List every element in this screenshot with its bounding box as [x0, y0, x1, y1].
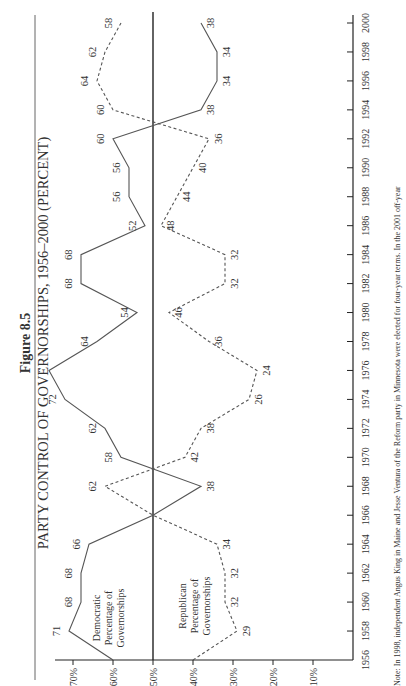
democratic-data-label: 68 [63, 249, 74, 259]
democratic-data-label: 60 [95, 134, 106, 145]
percent-tick-label: 30% [228, 668, 239, 686]
republican-data-label: 44 [181, 191, 192, 202]
republican-series-line [97, 23, 257, 660]
legend-democratic-line-3: Governorships [115, 588, 126, 647]
republican-data-label: 60 [95, 105, 106, 116]
year-tick-label: 1992 [360, 129, 371, 149]
percent-tick-label: 70% [68, 668, 79, 686]
year-tick-label: 1982 [360, 274, 371, 294]
republican-data-label: 32 [229, 568, 240, 579]
democratic-data-label: 38 [205, 105, 216, 116]
republican-data-label: 62 [87, 47, 98, 58]
republican-data-label: 29 [241, 626, 252, 637]
democratic-data-label: 54 [119, 307, 130, 318]
republican-data-label: 32 [229, 278, 240, 289]
republican-data-label: 42 [189, 452, 200, 463]
percent-tick-label: 10% [308, 668, 319, 686]
year-tick-label: 1958 [360, 621, 371, 641]
percent-tick-label: 20% [268, 668, 279, 686]
republican-data-label: 24 [261, 364, 272, 375]
legend-republican-line-2: Percentage of [189, 578, 200, 633]
year-tick-label: 1986 [360, 216, 371, 236]
democratic-data-label: 71 [51, 626, 62, 637]
republican-data-label: 40 [197, 163, 208, 174]
chart-note: Note: In 1998, independent Angus King in… [393, 186, 402, 686]
democratic-data-label: 56 [111, 163, 122, 174]
year-tick-label: 1972 [360, 418, 371, 438]
democratic-data-label: 56 [111, 191, 122, 202]
democratic-data-label: 72 [47, 394, 58, 405]
legend-republican-line-1: Republican [177, 583, 188, 629]
democratic-data-label: 52 [127, 220, 138, 231]
year-tick-label: 2000 [360, 13, 371, 33]
republican-data-label: 36 [213, 134, 224, 145]
year-tick-label: 1962 [360, 563, 371, 583]
republican-data-label: 32 [229, 249, 240, 259]
percent-tick-label: 50% [148, 668, 159, 686]
republican-data-label: 36 [213, 336, 224, 347]
democratic-data-label: 68 [63, 568, 74, 579]
year-tick-label: 1966 [360, 505, 371, 525]
democratic-data-label: 68 [63, 597, 74, 608]
democratic-data-label: 34 [221, 75, 232, 86]
republican-data-label: 58 [103, 18, 114, 29]
republican-data-label: 62 [87, 481, 98, 492]
year-tick-label: 1996 [360, 71, 371, 91]
year-tick-label: 1976 [360, 360, 371, 380]
democratic-series-line [49, 23, 217, 660]
republican-data-label: 26 [253, 394, 264, 405]
percent-tick-label: 40% [188, 668, 199, 686]
year-tick-label: 1980 [360, 303, 371, 323]
figure-label: Figure 8.5 [18, 313, 33, 373]
democratic-data-label: 68 [63, 278, 74, 289]
democratic-data-label: 34 [221, 46, 232, 57]
democratic-data-label: 66 [71, 539, 82, 550]
year-tick-label: 1968 [360, 476, 371, 496]
year-tick-label: 1990 [360, 158, 371, 178]
democratic-data-label: 62 [87, 423, 98, 434]
year-tick-label: 1964 [360, 534, 371, 554]
year-tick-label: 1960 [360, 592, 371, 612]
republican-data-label: 38 [205, 423, 216, 434]
democratic-data-label: 38 [205, 18, 216, 29]
republican-data-label: 32 [229, 597, 240, 608]
year-tick-label: 1988 [360, 187, 371, 207]
percent-tick-label: 60% [108, 668, 119, 686]
democratic-data-label: .. [31, 368, 42, 373]
year-tick-label: 1994 [360, 100, 371, 120]
year-tick-label: 1984 [360, 245, 371, 265]
republican-data-label: 48 [165, 220, 176, 231]
year-tick-label: 1974 [360, 389, 371, 409]
legend-republican-line-3: Governorships [201, 576, 212, 635]
legend-democratic-line-1: Democratic [91, 594, 102, 641]
democratic-data-label: 38 [205, 481, 216, 492]
chart: Figure 8.5 PARTY CONTROL OF GOVERNORSHIP… [0, 0, 406, 686]
republican-data-label: 46 [173, 307, 184, 318]
year-tick-label: 1978 [360, 332, 371, 352]
legend-democratic-line-2: Percentage of [103, 590, 114, 645]
republican-data-label: 34 [221, 538, 232, 549]
democratic-data-label: 64 [79, 336, 90, 347]
year-tick-label: 1998 [360, 42, 371, 62]
year-tick-label: 1956 [360, 650, 371, 670]
democratic-data-label: 58 [103, 452, 114, 463]
republican-data-label: 64 [79, 75, 90, 86]
year-tick-label: 1970 [360, 447, 371, 467]
chart-title: PARTY CONTROL OF GOVERNORSHIPS, 1956–200… [35, 137, 52, 550]
